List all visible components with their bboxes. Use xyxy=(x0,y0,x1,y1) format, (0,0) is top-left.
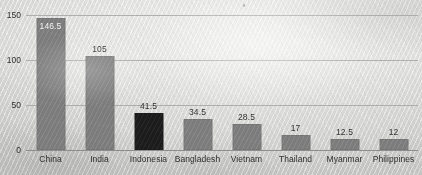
bar-slot: 41.5 xyxy=(124,15,173,150)
bar-value-label: 12.5 xyxy=(336,127,353,137)
bar-value-label: 17 xyxy=(291,123,301,133)
bar-slot: 34.5 xyxy=(173,15,222,150)
bar[interactable]: 105 xyxy=(85,56,114,151)
bar-value-label: 34.5 xyxy=(189,107,206,117)
bar[interactable]: 12.5 xyxy=(330,139,359,150)
x-axis-category-label: Philippines xyxy=(373,154,415,164)
bar-slot: 17 xyxy=(271,15,320,150)
bar-value-label: 146.5 xyxy=(40,21,62,31)
bar-chart-figure: 146.510541.534.528.51712.512 050100150 C… xyxy=(0,0,422,175)
bar[interactable]: 28.5 xyxy=(232,124,261,150)
x-axis-category-label: India xyxy=(90,154,109,164)
bar[interactable]: 34.5 xyxy=(183,119,212,150)
bar-value-label: 12 xyxy=(389,127,399,137)
x-axis-category-label: Indonesia xyxy=(130,154,167,164)
paper-speck-mark xyxy=(243,4,246,7)
y-axis-tick-label: 0 xyxy=(0,145,21,155)
bar-slot: 12.5 xyxy=(320,15,369,150)
bar-slot: 12 xyxy=(369,15,418,150)
bar-value-label: 41.5 xyxy=(140,101,157,111)
x-axis-category-label: China xyxy=(39,154,61,164)
bar[interactable]: 17 xyxy=(281,135,310,150)
bar-value-label: 105 xyxy=(92,44,106,54)
y-axis-tick-label: 50 xyxy=(0,100,21,110)
bar-slot: 28.5 xyxy=(222,15,271,150)
bar-slot: 146.5 xyxy=(26,15,75,150)
bar[interactable]: 146.5 xyxy=(36,18,65,150)
x-axis-baseline xyxy=(26,150,418,151)
x-axis-category-label: Myanmar xyxy=(327,154,363,164)
x-axis-category-label: Vietnam xyxy=(231,154,262,164)
bar-value-label: 28.5 xyxy=(238,112,255,122)
bar-highlighted[interactable]: 41.5 xyxy=(134,113,163,150)
plot-area: 146.510541.534.528.51712.512 xyxy=(26,15,418,150)
bars-group: 146.510541.534.528.51712.512 xyxy=(26,15,418,150)
y-axis-tick-label: 150 xyxy=(0,10,21,20)
x-axis-category-label: Bangladesh xyxy=(175,154,220,164)
bar[interactable]: 12 xyxy=(379,139,408,150)
bar-slot: 105 xyxy=(75,15,124,150)
x-axis-category-label: Thailand xyxy=(279,154,312,164)
y-axis-tick-label: 100 xyxy=(0,55,21,65)
